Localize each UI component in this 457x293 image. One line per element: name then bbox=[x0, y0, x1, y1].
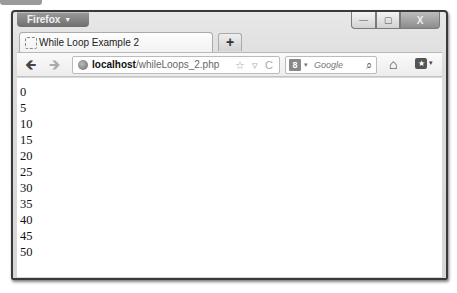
url-host: localhost bbox=[92, 59, 136, 70]
home-icon[interactable]: ⌂ bbox=[389, 56, 397, 72]
bookmark-star-history-reload-icons[interactable]: ☆ ▿ C bbox=[235, 59, 275, 71]
maximize-button[interactable]: ▢ bbox=[376, 12, 400, 29]
firefox-menu-button[interactable]: Firefox▼ bbox=[17, 12, 89, 27]
tab-while-loop-example-2[interactable]: While Loop Example 2 bbox=[19, 32, 213, 52]
output-line: 30 bbox=[20, 180, 442, 196]
bookmarks-dropdown-icon[interactable]: ▾ bbox=[429, 59, 433, 67]
minimize-icon: — bbox=[359, 15, 368, 25]
tab-title: While Loop Example 2 bbox=[39, 33, 139, 52]
search-icon[interactable]: ⌕ bbox=[366, 57, 372, 73]
navigation-toolbar: 🡸 🡺 localhost/whileLoops_2.php ☆ ▿ C 8 ▾… bbox=[17, 52, 442, 77]
output-line: 20 bbox=[20, 148, 442, 164]
site-identity-globe-icon[interactable] bbox=[78, 60, 88, 70]
bookmarks-icon[interactable]: ★ bbox=[415, 58, 427, 69]
search-placeholder: Google bbox=[314, 57, 343, 73]
minimize-button[interactable]: — bbox=[351, 12, 376, 29]
forward-arrow-icon[interactable]: 🡺 bbox=[49, 56, 60, 73]
url-text: localhost/whileLoops_2.php bbox=[92, 57, 219, 73]
back-arrow-icon[interactable]: 🡸 bbox=[25, 56, 36, 73]
maximize-icon: ▢ bbox=[384, 15, 393, 25]
output-line: 35 bbox=[20, 196, 442, 212]
background-window-tab bbox=[0, 0, 42, 5]
output-line: 45 bbox=[20, 228, 442, 244]
engine-dropdown-icon[interactable]: ▾ bbox=[304, 57, 308, 73]
window-controls: — ▢ X bbox=[351, 12, 440, 29]
url-bar-icons[interactable]: ☆ ▿ C bbox=[235, 57, 275, 73]
new-tab-button[interactable]: + bbox=[218, 33, 242, 51]
output-line: 15 bbox=[20, 132, 442, 148]
browser-window: Firefox▼ — ▢ X While Loop Example 2 + 🡸 … bbox=[11, 10, 448, 280]
chevron-down-icon: ▼ bbox=[64, 16, 71, 23]
close-button[interactable]: X bbox=[400, 12, 440, 29]
url-bar[interactable]: localhost/whileLoops_2.php ☆ ▿ C bbox=[72, 56, 280, 74]
output-line: 50 bbox=[20, 244, 442, 260]
close-icon: X bbox=[417, 15, 424, 26]
firefox-menu-label: Firefox bbox=[27, 14, 60, 25]
google-engine-icon[interactable]: 8 bbox=[289, 59, 301, 71]
output-line: 25 bbox=[20, 164, 442, 180]
search-box[interactable]: 8 ▾ Google ⌕ bbox=[285, 56, 377, 74]
output-line: 40 bbox=[20, 212, 442, 228]
url-path: /whileLoops_2.php bbox=[136, 59, 219, 70]
output-line: 5 bbox=[20, 100, 442, 116]
output-line: 10 bbox=[20, 116, 442, 132]
output-line: 0 bbox=[20, 84, 442, 100]
page-content: 0 5 10 15 20 25 30 35 40 45 50 bbox=[17, 77, 442, 277]
page-favicon-icon bbox=[25, 37, 37, 49]
